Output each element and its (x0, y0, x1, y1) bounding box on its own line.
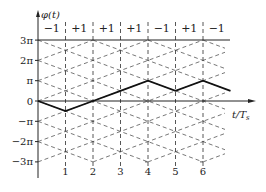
symbol-label: −1 (154, 22, 170, 35)
y-tick-label: −2π (12, 136, 34, 147)
x-tick-label: 4 (145, 166, 151, 177)
y-tick-label: −3π (12, 156, 34, 167)
x-axis-ticks: 123456 (62, 166, 206, 177)
x-tick-label: 1 (62, 166, 68, 177)
trellis-branch (203, 154, 225, 162)
symbol-labels: −1+1+1+1−1+1−1 (44, 22, 225, 35)
x-tick-label: 3 (117, 166, 123, 177)
symbol-label: +1 (71, 22, 87, 35)
trellis-branch (93, 113, 225, 162)
y-tick-label: 0 (27, 96, 33, 107)
y-tick-label: −π (18, 116, 33, 127)
symbol-label: −1 (209, 22, 225, 35)
trellis-branch (38, 40, 225, 109)
x-axis-title: t/Ts (232, 109, 250, 122)
y-tick-label: 2π (20, 55, 33, 66)
symbol-label: −1 (44, 22, 60, 35)
symbol-label: +1 (181, 22, 197, 35)
x-tick-label: 6 (200, 166, 206, 177)
y-tick-label: π (26, 75, 33, 86)
trellis-branch (203, 40, 225, 48)
y-axis-ticks: 3π2ππ0−π−2π−3π (12, 35, 38, 168)
x-tick-label: 5 (172, 166, 178, 177)
y-axis-title: φ(t) (41, 9, 60, 20)
phase-trellis-diagram: 3π2ππ0−π−2π−3π 123456 −1+1+1+1−1+1−1 φ(t… (0, 0, 266, 192)
symbol-label: +1 (126, 22, 142, 35)
trellis-branch (38, 81, 225, 150)
y-tick-label: 3π (20, 35, 33, 46)
y-axis-arrow-icon (36, 10, 40, 17)
x-axis-arrow-icon (248, 99, 256, 103)
phase-path (38, 81, 231, 111)
symbol-label: +1 (99, 22, 115, 35)
x-tick-label: 2 (90, 166, 96, 177)
trellis-branch (38, 60, 225, 129)
